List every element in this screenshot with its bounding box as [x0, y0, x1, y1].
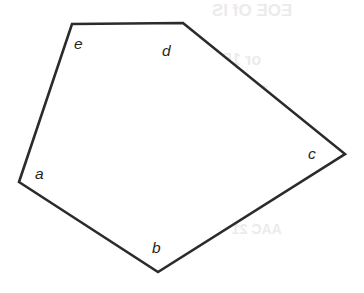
vertex-label-b: b — [152, 240, 161, 256]
figure-container: EOE Of ISor 150100 cc60AAC 21 abcde — [0, 0, 364, 293]
pentagon-shape — [19, 23, 345, 272]
vertex-label-e: e — [74, 36, 83, 52]
vertex-label-c: c — [308, 146, 316, 162]
vertex-label-d: d — [162, 43, 171, 59]
vertex-label-a: a — [35, 166, 44, 182]
